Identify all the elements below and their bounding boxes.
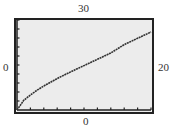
graph-window [0,0,172,131]
